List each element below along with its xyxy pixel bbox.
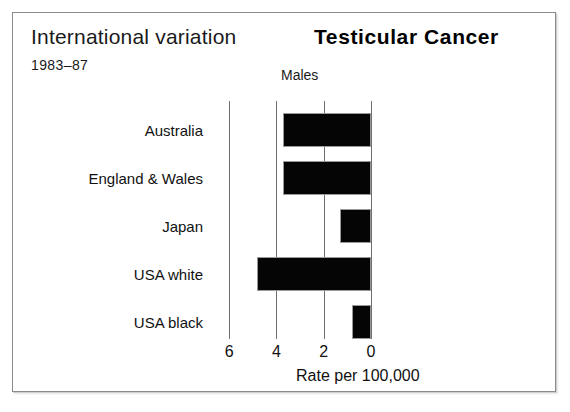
plot-area: 6420AustraliaEngland & WalesJapanUSA whi… [13,13,557,393]
bar [283,161,371,195]
x-tick-label: 0 [361,343,381,361]
x-axis-caption: Rate per 100,000 [296,367,420,385]
category-label: USA white [13,266,203,283]
category-label: England & Wales [13,170,203,187]
x-tick-label: 4 [266,343,286,361]
bar [257,257,371,291]
bar [352,305,371,339]
screenshot-root: International variation 1983–87 Testicul… [0,0,570,412]
bar [283,113,371,147]
bar [340,209,371,243]
category-label: Japan [13,218,203,235]
category-label: Australia [13,122,203,139]
x-tick-label: 2 [314,343,334,361]
category-label: USA black [13,314,203,331]
x-tick-label: 6 [219,343,239,361]
figure-frame: International variation 1983–87 Testicul… [12,12,556,392]
